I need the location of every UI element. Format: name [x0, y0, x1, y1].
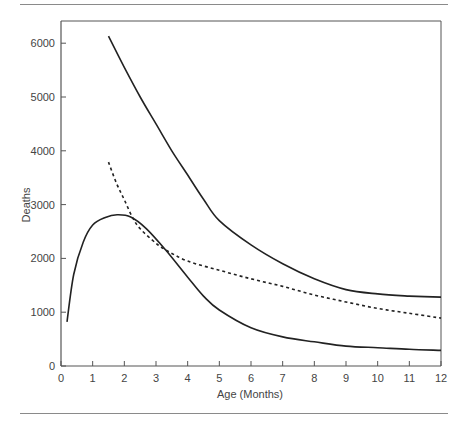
series-group — [67, 36, 441, 350]
x-tick-label: 11 — [404, 372, 415, 384]
x-axis-title: Age (Months) — [217, 388, 283, 400]
x-tick-label: 6 — [248, 372, 254, 384]
series-lower-solid-line — [67, 215, 441, 351]
x-tick-label: 0 — [58, 372, 64, 384]
y-tick-label: 1000 — [31, 306, 55, 318]
x-tick-label: 10 — [372, 372, 384, 384]
x-axis: 0123456789101112 — [58, 361, 447, 384]
plot-frame — [61, 21, 441, 366]
x-tick-label: 9 — [343, 372, 349, 384]
x-tick-label: 1 — [90, 372, 96, 384]
y-tick-label: 3000 — [31, 199, 55, 211]
line-chart: 0123456789101112 01000200030004000500060… — [0, 0, 457, 421]
y-axis-title: Deaths — [20, 187, 32, 222]
x-tick-label: 5 — [216, 372, 222, 384]
series-upper-solid-line — [109, 36, 442, 297]
x-tick-label: 3 — [153, 372, 159, 384]
x-tick-label: 2 — [121, 372, 127, 384]
x-tick-label: 4 — [185, 372, 191, 384]
y-tick-label: 4000 — [31, 145, 55, 157]
x-tick-label: 7 — [280, 372, 286, 384]
x-tick-label: 8 — [311, 372, 317, 384]
y-tick-label: 6000 — [31, 37, 55, 49]
y-tick-label: 2000 — [31, 252, 55, 264]
y-tick-label: 5000 — [31, 91, 55, 103]
y-tick-label: 0 — [49, 360, 55, 372]
x-tick-label: 12 — [435, 372, 447, 384]
